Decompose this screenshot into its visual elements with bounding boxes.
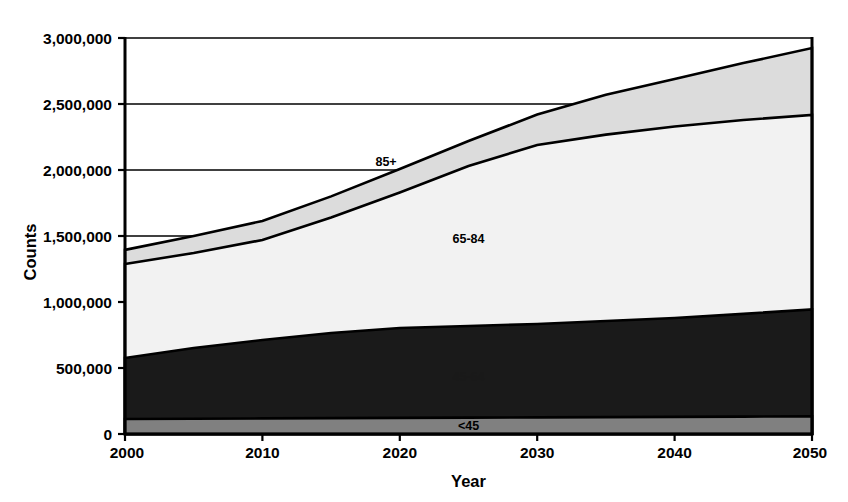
- y-tick-label: 1,500,000: [43, 228, 112, 245]
- y-tick-label: 3,000,000: [43, 30, 112, 47]
- y-axis-title: Counts: [21, 224, 39, 281]
- series-label-85: 85+: [375, 155, 396, 169]
- x-tick-label: 2020: [383, 444, 417, 461]
- x-tick-label: 2030: [520, 444, 554, 461]
- x-tick-label: 2050: [793, 444, 827, 461]
- series-label-65-84: 65-84: [453, 232, 485, 246]
- x-tick-label: 2010: [245, 444, 279, 461]
- x-tick-label: 2000: [110, 444, 144, 461]
- x-axis-title: Year: [451, 472, 486, 490]
- y-tick-label: 500,000: [56, 360, 112, 377]
- series-label-45: <45: [458, 419, 479, 433]
- series-label-45-64: 45-64: [453, 370, 485, 384]
- stacked-area-chart: 0500,0001,000,0001,500,0002,000,0002,500…: [0, 0, 848, 502]
- y-tick-label: 2,500,000: [43, 96, 112, 113]
- y-tick-label: 2,000,000: [43, 162, 112, 179]
- chart-canvas: 0500,0001,000,0001,500,0002,000,0002,500…: [0, 0, 848, 502]
- x-tick-label: 2040: [657, 444, 691, 461]
- y-tick-label: 0: [103, 426, 112, 443]
- y-tick-label: 1,000,000: [43, 294, 112, 311]
